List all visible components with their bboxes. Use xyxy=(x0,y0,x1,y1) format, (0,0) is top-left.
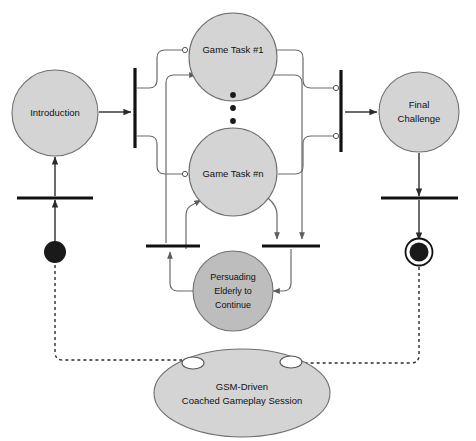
flow-game-task-n-to-join xyxy=(278,136,334,174)
final-challenge-label-line2: Challenge xyxy=(398,113,441,124)
bullseye-circle-icon-final xyxy=(410,243,429,262)
hollow-circle-connector-icon-taskn-in xyxy=(182,171,187,176)
flow-midright-bar-to-persuading xyxy=(273,249,291,291)
gsm-session-label-line1: GSM-Driven xyxy=(216,381,268,392)
hollow-ellipse-port-icon-left xyxy=(182,357,204,369)
persuading-label-line3: Continue xyxy=(215,300,251,310)
ellipsis-dot-3 xyxy=(230,118,236,124)
hollow-circle-connector-icon-task1-out xyxy=(333,85,338,90)
flow-fork-to-game-task-n xyxy=(137,136,182,174)
flow-midleft-bar-to-game-task-n xyxy=(186,200,201,249)
activity-node-final-challenge[interactable]: Final Challenge xyxy=(379,72,459,152)
ellipsis-dot-1 xyxy=(230,92,236,98)
persuading-label-line2: Elderly to xyxy=(214,286,252,296)
uml-activity-diagram: Introduction Game Task #1 Game Task #n F… xyxy=(0,0,476,441)
final-challenge-label-line1: Final xyxy=(409,99,430,110)
vertical-ellipsis-icon xyxy=(230,92,236,124)
flow-fork-to-game-task-1 xyxy=(137,50,182,88)
initial-node[interactable] xyxy=(44,241,66,263)
gsm-session-ellipse-shape xyxy=(154,349,330,437)
ellipsis-dot-2 xyxy=(230,105,236,111)
game-task-1-label: Game Task #1 xyxy=(202,44,263,55)
introduction-label: Introduction xyxy=(30,107,80,118)
filled-circle-icon-start xyxy=(44,241,66,263)
game-task-n-label: Game Task #n xyxy=(202,168,263,179)
hollow-circle-connector-icon-task1-in xyxy=(182,47,187,52)
dashed-flow-final-to-session xyxy=(300,267,419,363)
activity-node-game-task-1[interactable]: Game Task #1 xyxy=(189,13,277,101)
hollow-ellipse-port-icon-right xyxy=(280,356,302,368)
diagram-canvas: Introduction Game Task #1 Game Task #n F… xyxy=(0,0,476,441)
activity-node-introduction[interactable]: Introduction xyxy=(12,70,98,156)
activity-node-game-task-n[interactable]: Game Task #n xyxy=(189,128,277,216)
flow-game-task-n-to-midright-bar xyxy=(268,198,277,239)
flow-persuading-to-midleft-bar xyxy=(170,252,194,291)
hollow-circle-connector-icon-taskn-out xyxy=(333,133,338,138)
dashed-flow-start-to-session xyxy=(55,265,182,360)
final-node[interactable] xyxy=(406,239,433,266)
game-task-1-circle xyxy=(189,13,277,101)
activity-node-persuading-elderly[interactable]: Persuading Elderly to Continue xyxy=(193,251,273,331)
session-ellipse-gsm-driven[interactable]: GSM-Driven Coached Gameplay Session xyxy=(154,349,330,437)
flow-game-task-1-to-join xyxy=(277,50,334,88)
gsm-session-label-line2: Coached Gameplay Session xyxy=(182,395,302,406)
persuading-label-line1: Persuading xyxy=(210,272,256,282)
